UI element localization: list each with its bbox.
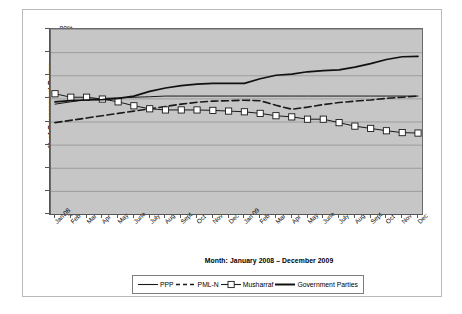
data-point-marker <box>352 123 358 129</box>
data-point-marker <box>415 130 421 136</box>
legend-swatch-icon <box>274 280 296 289</box>
legend-swatch-icon <box>175 280 197 289</box>
series-musharraf <box>52 91 421 137</box>
data-point-marker <box>162 107 168 113</box>
data-point-marker <box>399 130 405 136</box>
legend-label: PML-N <box>197 281 220 288</box>
x-axis-line <box>49 214 422 215</box>
series-line <box>55 56 418 102</box>
data-point-marker <box>147 106 153 112</box>
data-point-marker <box>68 94 74 100</box>
y-axis-line <box>49 28 50 214</box>
y-axis-tick <box>45 28 49 29</box>
data-point-marker <box>194 107 200 113</box>
legend-swatch-icon <box>220 280 242 289</box>
y-axis-tick <box>45 51 49 52</box>
data-point-marker <box>273 113 279 119</box>
legend-item-pml-n[interactable]: PML-N <box>175 280 220 289</box>
series-government-parties <box>55 56 418 102</box>
y-axis-tick <box>45 121 49 122</box>
legend-item-ppp[interactable]: PPP <box>137 280 175 289</box>
data-point-marker <box>320 116 326 122</box>
chart-frame: 80%70%60%50%40%30%20%10%0% % of Governme… <box>22 9 442 297</box>
legend-label: PPP <box>159 281 175 288</box>
y-axis-tick <box>45 97 49 98</box>
data-point-marker <box>304 116 310 122</box>
data-point-marker <box>210 107 216 113</box>
series-canvas <box>51 29 422 214</box>
data-point-marker <box>178 107 184 113</box>
y-axis-tick <box>45 144 49 145</box>
legend-item-musharraf[interactable]: Musharraf <box>220 280 275 289</box>
chart-screenshot: 80%70%60%50%40%30%20%10%0% % of Governme… <box>0 0 462 314</box>
data-point-marker <box>257 110 263 116</box>
y-axis-tick <box>45 190 49 191</box>
data-point-marker <box>368 125 374 131</box>
data-point-marker <box>241 109 247 115</box>
chart-legend: PPPPML-NMusharrafGovernment Parties <box>132 275 364 294</box>
y-axis-tick <box>45 74 49 75</box>
data-point-marker <box>115 99 121 105</box>
data-point-marker <box>52 91 58 97</box>
data-point-marker <box>289 114 295 120</box>
x-axis-title: Month: January 2008 – December 2009 <box>119 257 419 264</box>
data-point-marker <box>383 128 389 134</box>
legend-label: Musharraf <box>242 281 275 288</box>
data-point-marker <box>226 108 232 114</box>
y-axis-tick <box>45 167 49 168</box>
legend-item-government-parties[interactable]: Government Parties <box>274 280 358 289</box>
x-axis-tick-labels: Jan 08FebMarAprMayJuneJulyAugSeptOctNovD… <box>50 214 430 258</box>
data-point-marker <box>131 103 137 109</box>
legend-swatch-icon <box>137 280 159 289</box>
legend-label: Government Parties <box>296 281 358 288</box>
plot-area <box>50 28 423 215</box>
data-point-marker <box>336 120 342 126</box>
